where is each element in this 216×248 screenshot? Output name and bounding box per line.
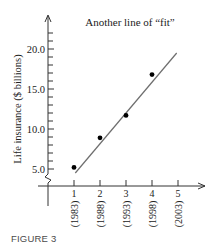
x-year-label: (1993) — [121, 201, 133, 228]
x-year-label: (1988) — [95, 201, 107, 228]
y-ticks — [48, 33, 54, 169]
data-points — [72, 72, 155, 170]
y-tick-label: 15.0 — [27, 84, 45, 95]
x-tick-label: 3 — [124, 188, 129, 199]
data-point — [98, 135, 103, 140]
x-year-label: (2003) — [173, 201, 185, 228]
fit-line — [75, 53, 176, 173]
chart-title: Another line of “fit” — [85, 16, 175, 28]
x-tick-label: 1 — [72, 188, 77, 199]
axis-break-icon — [45, 174, 51, 183]
y-tick-labels: 5.010.015.020.0 — [27, 44, 45, 175]
x-tick-label: 5 — [176, 188, 181, 199]
data-point — [124, 113, 129, 118]
x-tick-labels: 12345 — [72, 188, 181, 199]
x-year-label: (1983) — [69, 201, 81, 228]
x-year-label: (1998) — [147, 201, 159, 228]
y-axis-label: Life insurance ($ billions) — [12, 54, 24, 164]
x-year-labels: (1983)(1988)(1993)(1998)(2003) — [69, 201, 185, 228]
data-point — [72, 165, 77, 170]
chart: Another line of “fit” Life insurance ($ … — [0, 0, 216, 248]
x-tick-label: 2 — [98, 188, 103, 199]
y-tick-label: 5.0 — [32, 164, 45, 175]
x-tick-label: 4 — [150, 188, 155, 199]
x-ticks — [74, 180, 178, 186]
figure-caption: FIGURE 3 — [11, 233, 56, 244]
y-tick-label: 20.0 — [27, 44, 45, 55]
y-axis — [45, 15, 51, 206]
y-tick-label: 10.0 — [27, 124, 45, 135]
data-point — [150, 72, 155, 77]
